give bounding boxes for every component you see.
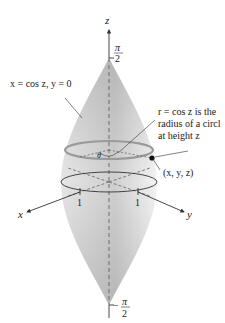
curve-leader-line: [65, 98, 82, 118]
x-axis-label: x: [17, 208, 23, 220]
curve-equation-label: x = cos z, y = 0: [10, 78, 72, 89]
solid-of-revolution-diagram: z x y π 2 − π 2 1 1 x = cos z, y = 0 r =…: [0, 0, 225, 323]
theta-label: θ: [97, 151, 101, 160]
z-axis-label: z: [104, 14, 110, 26]
x-tick-label: 1: [77, 197, 82, 208]
radius-note-line2: radius of a circl: [158, 118, 221, 129]
circle-leader-line: [155, 151, 188, 157]
top-tick-label: π 2: [114, 42, 123, 64]
svg-text:π: π: [115, 42, 121, 53]
y-axis-label: y: [186, 208, 192, 220]
svg-text:π: π: [122, 296, 128, 307]
svg-text:2: 2: [122, 308, 127, 319]
y-tick-label: 1: [135, 197, 140, 208]
point-label: (x, y, z): [163, 167, 193, 179]
svg-text:−: −: [113, 300, 119, 311]
bottom-tick-label: − π 2: [113, 296, 130, 319]
radius-note-line1: r = cos z is the: [158, 106, 217, 117]
radius-note-line3: at height z: [158, 130, 200, 141]
svg-text:2: 2: [115, 53, 120, 64]
